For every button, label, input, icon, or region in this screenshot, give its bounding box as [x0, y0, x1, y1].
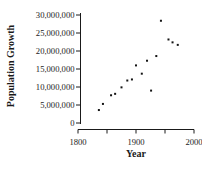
y-tick-label: 0 — [70, 118, 74, 128]
scatter-point — [160, 20, 162, 22]
scatter-point — [98, 109, 100, 111]
scatter-point — [155, 55, 157, 57]
y-tick-label: 20,000,000 — [36, 46, 75, 56]
data-points — [98, 20, 179, 111]
x-tick-label: 1900 — [127, 137, 144, 147]
y-tick-label: 25,000,000 — [36, 28, 75, 38]
y-tick-label: 10,000,000 — [36, 82, 75, 92]
plot-canvas: Population Growth 05,000,00010,000,00015… — [0, 0, 202, 172]
scatter-point — [102, 103, 104, 105]
y-tick-label: 5,000,000 — [40, 100, 74, 110]
scatter-point — [114, 93, 116, 95]
x-tick-label: 2000 — [185, 137, 202, 147]
scatter-point — [121, 86, 123, 88]
scatter-point — [172, 41, 174, 43]
scatter-point — [131, 78, 133, 80]
y-axis-title: Population Growth — [5, 24, 16, 107]
scatter-point — [126, 80, 128, 82]
x-axis: 180019002000 — [69, 130, 202, 148]
y-tick-label: 30,000,000 — [36, 10, 75, 20]
scatter-point — [150, 90, 152, 92]
y-tick-label: 15,000,000 — [36, 64, 75, 74]
scatter-point — [141, 73, 143, 75]
population-growth-scatter-figure: Population Growth 05,000,00010,000,00015… — [0, 0, 202, 172]
scatter-point — [177, 44, 179, 46]
y-axis: 05,000,00010,000,00015,000,00020,000,000… — [36, 10, 81, 128]
scatter-point — [146, 60, 148, 62]
scatter-point — [110, 94, 112, 96]
x-axis-title: Year — [126, 148, 147, 159]
x-tick-label: 1800 — [69, 137, 86, 147]
scatter-point — [135, 64, 137, 66]
scatter-point — [167, 38, 169, 40]
